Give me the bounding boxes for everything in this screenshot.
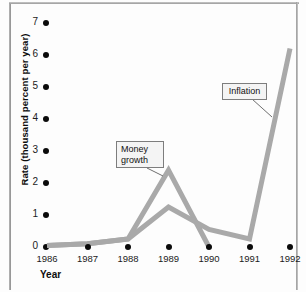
x-tick-label-1987: 1987 [68,253,108,264]
x-tick-label-1990: 1990 [189,253,229,264]
x-tick-marker-1987 [85,244,91,250]
x-tick-label-1992: 1992 [270,253,306,264]
x-tick-label-1989: 1989 [149,253,189,264]
x-tick-label-1988: 1988 [108,253,148,264]
x-tick-label-1991: 1991 [230,253,270,264]
x-tick-marker-1991 [247,244,253,250]
chart-figure: Rate (thousand percent per year) 0123456… [0,0,306,292]
x-tick-label-1986: 1986 [27,253,67,264]
series-line-money-growth [47,170,209,247]
x-tick-marker-1988 [125,244,131,250]
annotation-inflation: Inflation [222,83,267,100]
annotation-inflation-label: Inflation [227,86,262,97]
annotation-money-growth-line1: Money [121,144,159,155]
x-tick-marker-1990 [206,244,212,250]
annotation-money-growth-line2: growth [121,155,159,166]
x-tick-marker-1992 [287,244,293,250]
series-line-inflation [47,49,290,246]
x-tick-marker-1989 [166,244,172,250]
series-layer [47,49,290,247]
annotation-leader-lines [147,99,272,176]
x-axis-title: Year [40,269,61,280]
annotation-money-growth: Money growth [116,141,164,168]
